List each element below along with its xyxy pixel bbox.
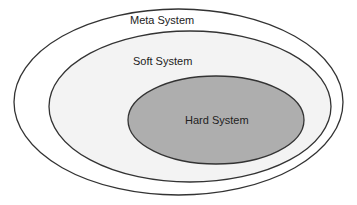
soft-system-label: Soft System xyxy=(133,55,192,67)
hard-system-label: Hard System xyxy=(185,114,249,126)
nested-systems-diagram: Meta System Soft System Hard System xyxy=(0,0,357,205)
meta-system-label: Meta System xyxy=(130,14,194,26)
